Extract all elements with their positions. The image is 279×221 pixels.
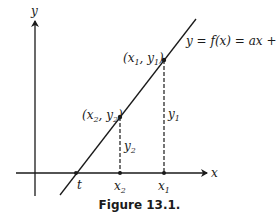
point-t [74,171,78,175]
point-x2 [118,171,122,175]
y1-height-label: y1 [167,107,180,123]
t-label: t [77,178,82,192]
point-x1 [162,171,166,175]
line-equation-label: y = f(x) = ax + b [185,34,279,48]
y2-height-label: y2 [123,139,136,155]
linear-function-diagram: y x y = f(x) = ax + b (x1, y1) (x2, y2) … [0,0,279,221]
figure-caption: Figure 13.1. [0,198,279,212]
y-axis-label: y [30,4,38,18]
point-p1-label: (x1, y1) [123,51,164,67]
x1-tick-label: x1 [158,179,170,195]
x-axis-label: x [211,166,218,180]
point-p2-label: (x2, y2) [82,108,123,124]
function-line [60,19,196,195]
x2-tick-label: x2 [114,179,126,195]
